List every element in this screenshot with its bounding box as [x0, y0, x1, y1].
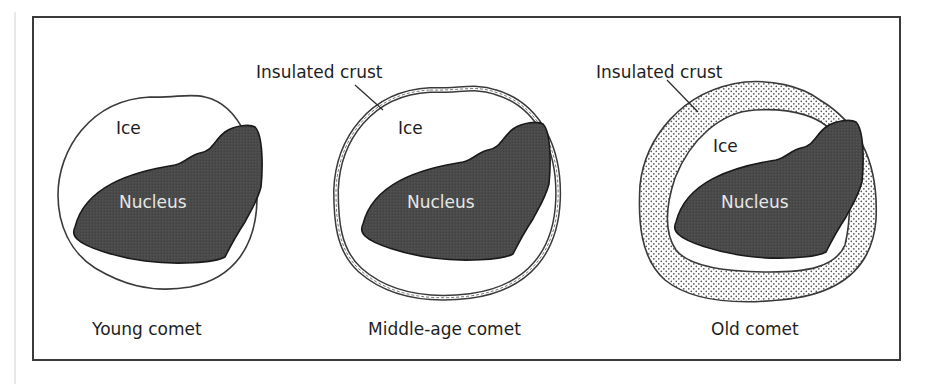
ice-label: Ice — [116, 118, 141, 138]
nucleus-label: Nucleus — [721, 192, 789, 212]
nucleus-label: Nucleus — [407, 192, 475, 212]
panel-young-comet: Ice Nucleus Young comet — [58, 95, 262, 339]
crust-label: Insulated crust — [596, 62, 723, 82]
ice-label: Ice — [713, 136, 738, 156]
panel-middle-age-comet: Insulated crust Ice Nucleus Middle-age c… — [256, 62, 558, 339]
nucleus-label: Nucleus — [119, 192, 187, 212]
crust-label: Insulated crust — [256, 62, 383, 82]
comet-aging-diagram: Ice Nucleus Young comet Insulated crust … — [0, 0, 928, 384]
caption-middle-age-comet: Middle-age comet — [368, 319, 521, 339]
ice-label: Ice — [398, 118, 423, 138]
panel-old-comet: Insulated crust Ice Nucleus Old comet — [596, 62, 876, 339]
caption-old-comet: Old comet — [711, 319, 799, 339]
crust-leader-line — [355, 85, 383, 110]
caption-young-comet: Young comet — [91, 319, 202, 339]
